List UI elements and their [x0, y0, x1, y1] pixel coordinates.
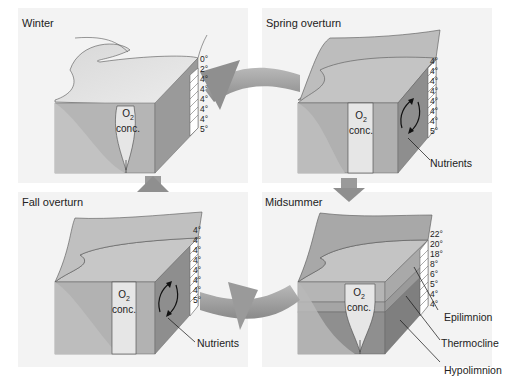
- spring-block: [298, 30, 440, 173]
- temp-scale-midsummer: 22° 20° 18° 8° 6° 5° 4° 4°: [430, 229, 443, 309]
- winter-block: [55, 35, 207, 173]
- callout-hypolimnion: Hypolimnion: [444, 364, 502, 376]
- temp-scale-spring: 4° 4° 4° 4° 4° 4° 4° 5°: [430, 56, 438, 136]
- callout-epilimnion: Epilimnion: [444, 311, 492, 323]
- o2-label-fall: O2 conc.: [108, 289, 140, 315]
- panel-title-winter: Winter: [22, 17, 54, 29]
- callout-nutrients-fall: Nutrients: [197, 337, 239, 349]
- callout-thermocline: Thermocline: [441, 337, 499, 349]
- temp-scale-winter: 0° 2° 4° 4° 4° 4° 4° 5°: [200, 54, 208, 134]
- panel-title-spring: Spring overturn: [266, 17, 341, 29]
- callout-nutrients-spring: Nutrients: [430, 157, 472, 169]
- arrow-spring-to-midsummer-head: [333, 188, 365, 202]
- panel-title-midsummer: Midsummer: [265, 196, 322, 208]
- o2-label-winter: O2 conc.: [113, 108, 143, 134]
- arrow-fall-to-winter-head: [137, 176, 169, 192]
- o2-label-midsummer: O2 conc.: [343, 287, 375, 313]
- o2-label-spring: O2 conc.: [345, 110, 377, 136]
- panel-title-fall: Fall overturn: [22, 196, 83, 208]
- fall-block: [55, 212, 202, 354]
- temp-scale-fall: 4° 4° 4° 4° 4° 4° 4° 5°: [193, 225, 201, 305]
